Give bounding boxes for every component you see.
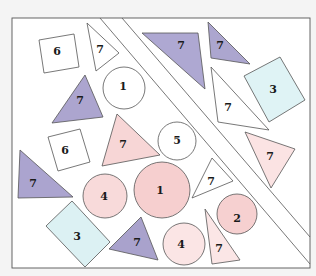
shape-label: 7 xyxy=(216,39,224,52)
shape-circle-4-bottom: 4 xyxy=(163,223,205,265)
shapes-diagram: 6 7 1 7 6 7 5 7 4 1 7 2 xyxy=(0,0,316,276)
shape-label: 7 xyxy=(29,177,37,190)
shape-circle-1-big: 1 xyxy=(134,162,190,218)
shape-circle-5: 5 xyxy=(158,122,196,160)
shape-label: 7 xyxy=(266,150,274,163)
shape-label: 7 xyxy=(224,101,232,114)
shape-label: 7 xyxy=(96,43,104,56)
shape-label: 7 xyxy=(215,242,223,255)
shape-label: 7 xyxy=(177,39,185,52)
shape-label: 4 xyxy=(177,238,185,251)
shape-circle-1-top: 1 xyxy=(103,67,145,109)
shape-square-6-top: 6 xyxy=(39,34,79,73)
shape-label: 1 xyxy=(119,80,127,93)
shape-label: 7 xyxy=(133,236,141,249)
shape-label: 3 xyxy=(73,230,81,243)
shape-label: 6 xyxy=(61,144,69,157)
shape-label: 7 xyxy=(207,175,215,188)
shape-label: 6 xyxy=(53,45,61,58)
shape-label: 1 xyxy=(156,184,164,197)
shape-circle-4-left: 4 xyxy=(83,174,127,218)
shape-label: 7 xyxy=(119,138,127,151)
shape-label: 7 xyxy=(76,94,84,107)
shape-circle-2: 2 xyxy=(217,194,257,234)
shape-label: 5 xyxy=(173,134,181,147)
shape-label: 4 xyxy=(100,190,108,203)
shape-label: 2 xyxy=(233,212,241,225)
shape-label: 3 xyxy=(269,83,277,96)
